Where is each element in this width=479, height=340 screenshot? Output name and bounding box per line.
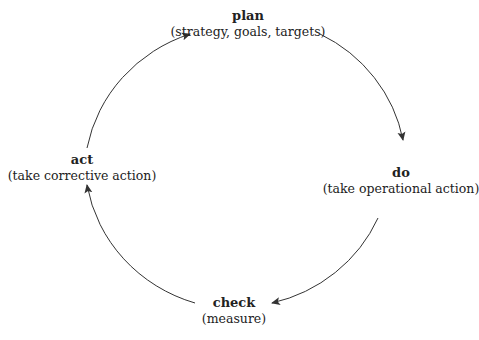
node-do-title: do — [323, 165, 479, 181]
node-plan-title: plan — [170, 8, 325, 24]
node-check-title: check — [202, 295, 266, 311]
node-act-title: act — [8, 152, 157, 168]
node-do: do (take operational action) — [323, 165, 479, 197]
arrow-do-to-check — [272, 218, 378, 303]
node-plan: plan (strategy, goals, targets) — [170, 8, 325, 40]
node-check-subtitle: (measure) — [202, 311, 266, 327]
arrow-plan-to-do — [320, 34, 403, 140]
node-act: act (take corrective action) — [8, 152, 157, 184]
node-do-subtitle: (take operational action) — [323, 181, 479, 197]
arrow-check-to-act — [87, 185, 195, 303]
node-act-subtitle: (take corrective action) — [8, 168, 157, 184]
arrow-act-to-plan — [87, 34, 190, 148]
node-check: check (measure) — [202, 295, 266, 327]
node-plan-subtitle: (strategy, goals, targets) — [170, 24, 325, 40]
